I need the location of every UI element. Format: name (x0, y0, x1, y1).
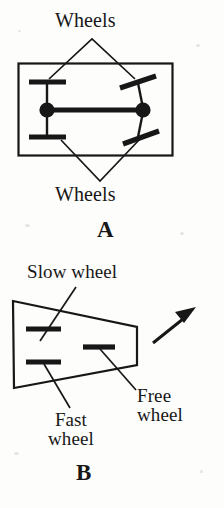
panel-a-graphics (19, 39, 173, 181)
leader-line-fast-wheel (44, 364, 70, 408)
label-free-wheel-line1: Free (137, 386, 183, 405)
leader-line-free-wheel (100, 349, 136, 390)
wheel-bar-right-bottom (123, 131, 159, 144)
label-fast-wheel-line1: Fast (48, 410, 94, 429)
scan-speck (196, 44, 200, 47)
scan-speck (18, 30, 21, 32)
scan-speck (200, 470, 203, 473)
leader-line-top-wheels (49, 39, 135, 79)
label-fast-wheel: Fast wheel (48, 410, 94, 449)
label-free-wheel-line2: wheel (137, 405, 183, 424)
diagram-svg (0, 0, 224, 508)
panel-b-body-trapezoid (13, 301, 137, 388)
scan-speck (25, 224, 30, 227)
figure-root: Wheels Wheels A Slow wheel Fast wheel Fr… (0, 0, 224, 508)
label-wheels-top: Wheels (55, 10, 116, 30)
panel-b-caption: B (76, 461, 91, 484)
label-wheels-bottom: Wheels (55, 184, 116, 204)
scan-speck (14, 452, 19, 455)
pivot-joint-right (135, 102, 150, 117)
label-slow-wheel: Slow wheel (27, 262, 117, 281)
panel-a-caption: A (97, 218, 114, 241)
scan-speck (180, 232, 184, 235)
direction-arrow-icon (153, 307, 196, 343)
label-free-wheel: Free wheel (137, 386, 183, 425)
label-fast-wheel-line2: wheel (48, 429, 94, 448)
pivot-joint-left (39, 102, 54, 117)
leader-line-bottom-wheels (61, 140, 139, 181)
